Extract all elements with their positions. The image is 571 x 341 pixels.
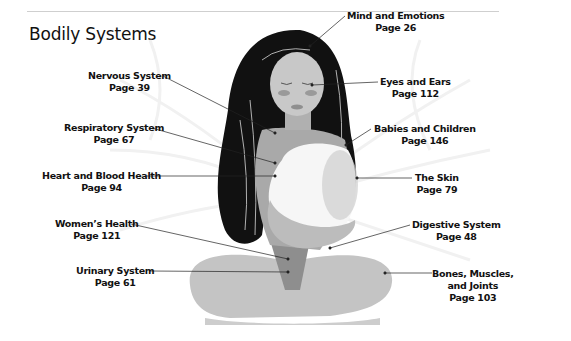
label-babies-and-children[interactable]: Babies and ChildrenPage 146 [374, 123, 476, 147]
label-urinary-system[interactable]: Urinary SystemPage 61 [76, 265, 154, 289]
label-the-skin[interactable]: The SkinPage 79 [415, 172, 459, 196]
label-bones-muscles-joints[interactable]: Bones, Muscles,and JointsPage 103 [432, 268, 514, 304]
label-heart-and-blood-health[interactable]: Heart and Blood HealthPage 94 [42, 170, 161, 194]
label-nervous-system[interactable]: Nervous SystemPage 39 [88, 70, 171, 94]
label-eyes-and-ears[interactable]: Eyes and EarsPage 112 [380, 76, 451, 100]
label-digestive-system[interactable]: Digestive SystemPage 48 [412, 219, 501, 243]
label-mind-and-emotions[interactable]: Mind and EmotionsPage 26 [347, 10, 444, 34]
label-respiratory-system[interactable]: Respiratory SystemPage 67 [64, 122, 164, 146]
label-womens-health[interactable]: Women’s HealthPage 121 [55, 218, 139, 242]
